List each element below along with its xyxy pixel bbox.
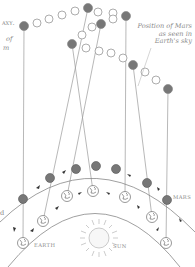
- earth-icon: [161, 238, 172, 249]
- earth-icon: [62, 191, 73, 202]
- sun-label: Sun: [113, 244, 127, 250]
- cut-text-low: d: [0, 210, 4, 218]
- mars-orbit-positions: [19, 162, 172, 205]
- cut-text-mid1: of: [6, 36, 12, 44]
- earth-icon: [18, 238, 29, 249]
- earth-icon: [120, 192, 131, 203]
- position-caption: Position of Mars as seen in Earth's sky: [138, 23, 192, 46]
- caption-pointer: [138, 48, 151, 86]
- cut-text-top: axy.: [2, 20, 15, 28]
- sky-positions: [20, 4, 173, 94]
- mars-label: Mars: [173, 195, 191, 201]
- mars-orbit: [0, 178, 195, 232]
- sun-icon: [80, 219, 118, 257]
- earth-label: Earth: [34, 243, 55, 249]
- cut-text-mid2: m: [3, 45, 9, 53]
- earth-icon: [147, 212, 158, 223]
- earth-icon: [38, 216, 49, 227]
- earth-icon: [88, 186, 99, 197]
